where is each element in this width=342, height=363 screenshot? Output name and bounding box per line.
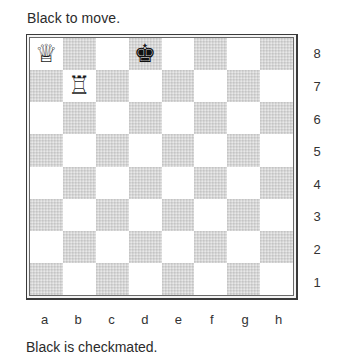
- square-h8[interactable]: [260, 38, 293, 70]
- rank-label-3: 3: [311, 209, 323, 224]
- square-g8[interactable]: [227, 38, 260, 70]
- square-h4[interactable]: [260, 167, 293, 199]
- square-a3[interactable]: [30, 199, 63, 231]
- square-e4[interactable]: [162, 167, 195, 199]
- turn-indicator: Black to move.: [27, 10, 120, 26]
- white-queen-icon[interactable]: ♕: [35, 41, 57, 66]
- square-g6[interactable]: [227, 102, 260, 134]
- file-label-h: h: [273, 312, 285, 327]
- square-d3[interactable]: [129, 199, 162, 231]
- file-label-d: d: [139, 312, 151, 327]
- square-a1[interactable]: [30, 263, 63, 295]
- square-f3[interactable]: [194, 199, 227, 231]
- square-d4[interactable]: [129, 167, 162, 199]
- square-g7[interactable]: [227, 70, 260, 102]
- square-f4[interactable]: [194, 167, 227, 199]
- square-e5[interactable]: [162, 134, 195, 166]
- black-king-icon[interactable]: ♚: [134, 41, 156, 66]
- rank-label-5: 5: [311, 144, 323, 159]
- square-c7[interactable]: [96, 70, 129, 102]
- square-b7[interactable]: ♖: [63, 70, 96, 102]
- square-e8[interactable]: [162, 38, 195, 70]
- square-d5[interactable]: [129, 134, 162, 166]
- square-f8[interactable]: [194, 38, 227, 70]
- file-label-a: a: [39, 312, 51, 327]
- chess-board: ♕♚♖: [26, 34, 298, 300]
- square-e1[interactable]: [162, 263, 195, 295]
- file-label-b: b: [72, 312, 84, 327]
- square-f5[interactable]: [194, 134, 227, 166]
- square-d6[interactable]: [129, 102, 162, 134]
- square-b1[interactable]: [63, 263, 96, 295]
- square-h7[interactable]: [260, 70, 293, 102]
- square-c2[interactable]: [96, 231, 129, 263]
- game-status: Black is checkmated.: [26, 339, 158, 355]
- square-d2[interactable]: [129, 231, 162, 263]
- square-g1[interactable]: [227, 263, 260, 295]
- rank-label-1: 1: [311, 275, 323, 290]
- square-c8[interactable]: [96, 38, 129, 70]
- rank-label-2: 2: [311, 242, 323, 257]
- square-b5[interactable]: [63, 134, 96, 166]
- square-a5[interactable]: [30, 134, 63, 166]
- square-b3[interactable]: [63, 199, 96, 231]
- square-g4[interactable]: [227, 167, 260, 199]
- square-d7[interactable]: [129, 70, 162, 102]
- square-b4[interactable]: [63, 167, 96, 199]
- file-label-f: f: [206, 312, 218, 327]
- square-a6[interactable]: [30, 102, 63, 134]
- board-grid: ♕♚♖: [29, 37, 294, 296]
- file-label-c: c: [106, 312, 118, 327]
- square-g3[interactable]: [227, 199, 260, 231]
- square-d1[interactable]: [129, 263, 162, 295]
- square-e2[interactable]: [162, 231, 195, 263]
- square-g5[interactable]: [227, 134, 260, 166]
- square-a8[interactable]: ♕: [30, 38, 63, 70]
- square-a7[interactable]: [30, 70, 63, 102]
- square-c5[interactable]: [96, 134, 129, 166]
- square-g2[interactable]: [227, 231, 260, 263]
- square-h3[interactable]: [260, 199, 293, 231]
- file-label-g: g: [239, 312, 251, 327]
- rank-label-6: 6: [311, 112, 323, 127]
- square-c6[interactable]: [96, 102, 129, 134]
- square-h5[interactable]: [260, 134, 293, 166]
- square-a4[interactable]: [30, 167, 63, 199]
- rank-label-7: 7: [311, 79, 323, 94]
- rank-label-4: 4: [311, 177, 323, 192]
- square-f2[interactable]: [194, 231, 227, 263]
- square-e6[interactable]: [162, 102, 195, 134]
- square-e3[interactable]: [162, 199, 195, 231]
- square-h6[interactable]: [260, 102, 293, 134]
- white-rook-icon[interactable]: ♖: [68, 73, 90, 98]
- square-c1[interactable]: [96, 263, 129, 295]
- square-h1[interactable]: [260, 263, 293, 295]
- square-d8[interactable]: ♚: [129, 38, 162, 70]
- square-f7[interactable]: [194, 70, 227, 102]
- square-b2[interactable]: [63, 231, 96, 263]
- square-f6[interactable]: [194, 102, 227, 134]
- square-h2[interactable]: [260, 231, 293, 263]
- square-c4[interactable]: [96, 167, 129, 199]
- file-label-e: e: [172, 312, 184, 327]
- square-c3[interactable]: [96, 199, 129, 231]
- square-a2[interactable]: [30, 231, 63, 263]
- rank-label-8: 8: [311, 46, 323, 61]
- square-f1[interactable]: [194, 263, 227, 295]
- square-b6[interactable]: [63, 102, 96, 134]
- square-e7[interactable]: [162, 70, 195, 102]
- square-b8[interactable]: [63, 38, 96, 70]
